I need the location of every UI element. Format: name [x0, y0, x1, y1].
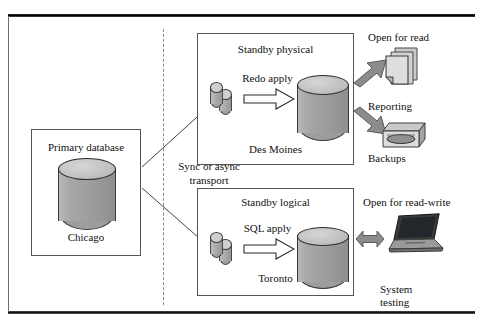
physical-standby-title: Standby physical — [197, 43, 354, 56]
reporting-documents-stack-icon — [381, 46, 425, 96]
system-testing-label-line1: System — [380, 283, 412, 295]
figure-bottom-rule — [8, 311, 475, 314]
logical-standby-city-label: Toronto — [197, 272, 354, 285]
sql-apply-arrow-icon — [243, 238, 295, 260]
redo-log-cylinder-front — [210, 82, 223, 108]
open-for-read-write-label: Open for read-write — [363, 196, 485, 209]
primary-database-cylinder-icon — [58, 158, 116, 230]
redo-apply-arrow-icon — [243, 88, 295, 110]
system-testing-label: System testing — [380, 283, 450, 309]
data-guard-architecture-diagram: Primary database Chicago Sync or async t… — [0, 0, 488, 326]
transport-label-line2: transport — [189, 174, 228, 186]
physical-standby-city-label: Des Moines — [197, 143, 354, 156]
arrow-to-system-testing — [355, 228, 385, 254]
physical-standby-redo-logs-icon — [210, 82, 240, 116]
backups-tape-drive-icon — [381, 121, 427, 153]
primary-database-city-label: Chicago — [31, 231, 141, 244]
figure-left-rule — [8, 16, 9, 312]
primary-database-title: Primary database — [31, 141, 141, 154]
figure-top-rule — [8, 14, 475, 17]
system-testing-label-line2: testing — [380, 296, 409, 308]
cylinder-top-cap — [58, 158, 116, 180]
backups-label: Backups — [368, 152, 438, 165]
logical-standby-title: Standby logical — [197, 196, 354, 209]
logical-standby-redo-logs-icon — [210, 232, 240, 266]
redo-log-cylinder-front — [210, 232, 223, 258]
open-for-read-label: Open for read — [368, 31, 478, 44]
physical-standby-database-cylinder-icon — [297, 75, 349, 141]
system-testing-laptop-icon — [385, 212, 447, 260]
